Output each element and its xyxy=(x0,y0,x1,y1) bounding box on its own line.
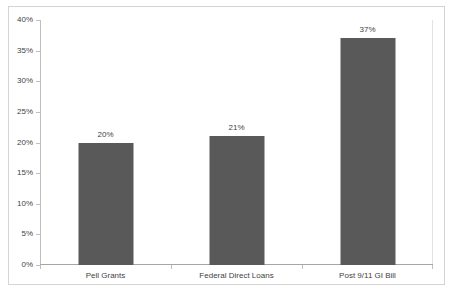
x-axis-tick xyxy=(432,265,433,269)
bar[interactable]: 37% xyxy=(340,38,395,265)
y-axis-tick-label: 5% xyxy=(21,230,33,238)
y-axis-tick-label: 20% xyxy=(17,139,33,147)
y-axis-tick-label: 15% xyxy=(17,169,33,177)
x-axis-category-label: Pell Grants xyxy=(86,272,126,280)
x-axis-tick xyxy=(40,265,41,269)
y-axis-tick xyxy=(36,204,40,205)
bar-chart-figure: 0%5%10%15%20%25%30%35%40% Pell GrantsFed… xyxy=(8,6,445,285)
y-axis-tick-label: 35% xyxy=(17,47,33,55)
y-axis-tick xyxy=(36,143,40,144)
bar-value-label: 21% xyxy=(228,124,244,132)
y-axis-tick-label: 0% xyxy=(21,261,33,269)
y-axis-tick xyxy=(36,51,40,52)
y-axis-tick-label: 40% xyxy=(17,16,33,24)
y-axis-tick xyxy=(36,173,40,174)
plot-area: 0%5%10%15%20%25%30%35%40% Pell GrantsFed… xyxy=(40,20,433,265)
bar[interactable]: 21% xyxy=(209,136,264,265)
x-axis-category-label: Post 9/11 GI Bill xyxy=(339,272,396,280)
bar-value-label: 20% xyxy=(97,131,113,139)
x-axis-tick xyxy=(171,265,172,269)
y-axis-tick xyxy=(36,112,40,113)
y-axis-tick-label: 30% xyxy=(17,77,33,85)
bar[interactable]: 20% xyxy=(78,143,133,266)
y-axis-tick xyxy=(36,20,40,21)
x-axis-tick xyxy=(302,265,303,269)
y-axis-tick xyxy=(36,234,40,235)
y-axis-tick xyxy=(36,81,40,82)
plot-right-border xyxy=(432,20,433,265)
y-axis-tick-label: 10% xyxy=(17,200,33,208)
x-axis-category-label: Federal Direct Loans xyxy=(199,272,273,280)
y-axis-tick-label: 25% xyxy=(17,108,33,116)
y-axis-line xyxy=(40,20,41,265)
bar-value-label: 37% xyxy=(359,26,375,34)
